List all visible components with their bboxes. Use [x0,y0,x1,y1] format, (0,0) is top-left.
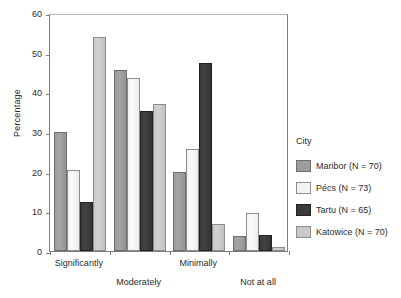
y-axis-title: Percentage [12,63,22,163]
legend-entry: Maribor (N = 70) [296,155,401,177]
y-tick-label: 50 [22,49,42,59]
x-tick-line [50,251,51,255]
y-tick-label: 30 [22,128,42,138]
legend-entry: Tartu (N = 65) [296,199,401,221]
x-tick-label: Minimally [180,258,218,268]
y-tick-line [46,15,50,16]
bar [114,70,127,251]
bar [67,170,80,251]
x-tick-line [170,251,171,255]
bar [153,104,166,251]
y-tick-label: 60 [22,9,42,19]
x-tick-line [110,251,111,255]
bar [186,149,199,251]
y-tick-label: 20 [22,168,42,178]
legend-label: Maribor (N = 70) [316,161,382,171]
legend-entries: Maribor (N = 70)Pécs (N = 73)Tartu (N = … [296,155,401,243]
y-tick-line [46,213,50,214]
bar [140,111,153,251]
legend-label: Pécs (N = 73) [316,183,371,193]
legend-swatch [296,226,311,238]
bar [259,235,272,251]
bars-layer [50,15,287,251]
legend-entry: Pécs (N = 73) [296,177,401,199]
legend-label: Katowice (N = 70) [316,227,388,237]
legend-entry: Katowice (N = 70) [296,221,401,243]
x-tick-line [229,251,230,255]
y-tick-line [46,174,50,175]
bar [233,236,246,251]
legend-swatch [296,182,311,194]
y-tick-line [46,55,50,56]
bar [199,63,212,251]
y-tick-label: 0 [22,247,42,257]
bar [80,202,93,251]
y-tick-line [46,94,50,95]
x-tick-label: Significantly [55,258,103,268]
y-tick-label: 40 [22,88,42,98]
legend-swatch [296,160,311,172]
x-tick-label: Not at all [240,277,276,287]
legend-swatch [296,204,311,216]
bar [173,172,186,251]
bar [127,78,140,251]
bar [246,213,259,251]
legend-title: City [296,136,401,146]
x-tick-label: Moderately [116,277,161,287]
plot-area: 0102030405060 [49,14,288,252]
bar [212,224,225,251]
y-tick-label: 10 [22,207,42,217]
legend-label: Tartu (N = 65) [316,205,371,215]
x-tick-line [289,251,290,255]
legend: City Maribor (N = 70)Pécs (N = 73)Tartu … [296,136,401,243]
bar [272,247,285,251]
y-tick-line [46,134,50,135]
bar [54,132,67,251]
bar [93,37,106,251]
bar-chart-figure: Percentage 0102030405060 SignificantlyMo… [0,0,401,298]
